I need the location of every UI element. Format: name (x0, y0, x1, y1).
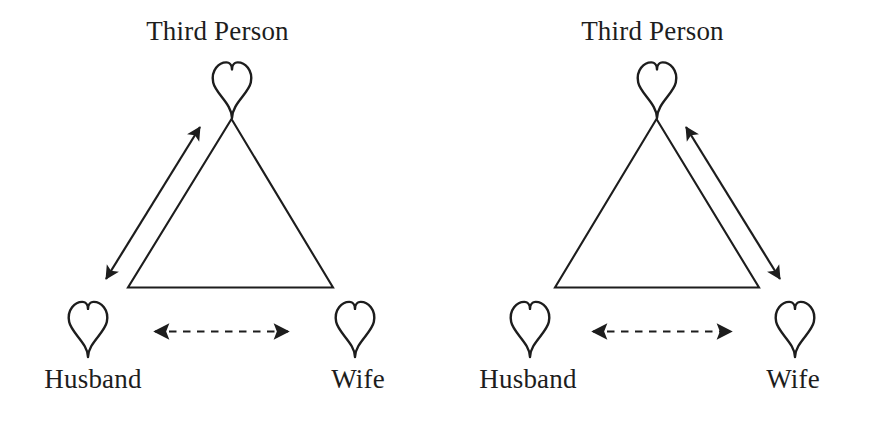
diagram-right-art (435, 0, 870, 421)
heart-icon-wife (336, 302, 375, 357)
diagram-right: Third Person Husband Wife (435, 0, 870, 421)
diagram-left: Third Person Husband Wife (0, 0, 435, 421)
heart-icon-wife (776, 302, 815, 357)
figure-canvas: Third Person Husband Wife (0, 0, 870, 421)
relation-husband-third-person (106, 127, 200, 279)
heart-icon-third-person (213, 62, 252, 118)
heart-icon-husband (511, 302, 550, 357)
heart-icon-third-person (638, 62, 677, 118)
triangle-outline (555, 119, 759, 288)
heart-icon-husband (69, 302, 108, 357)
diagram-left-art (0, 0, 435, 421)
triangle-outline (128, 119, 333, 288)
relation-wife-third-person (686, 127, 780, 279)
